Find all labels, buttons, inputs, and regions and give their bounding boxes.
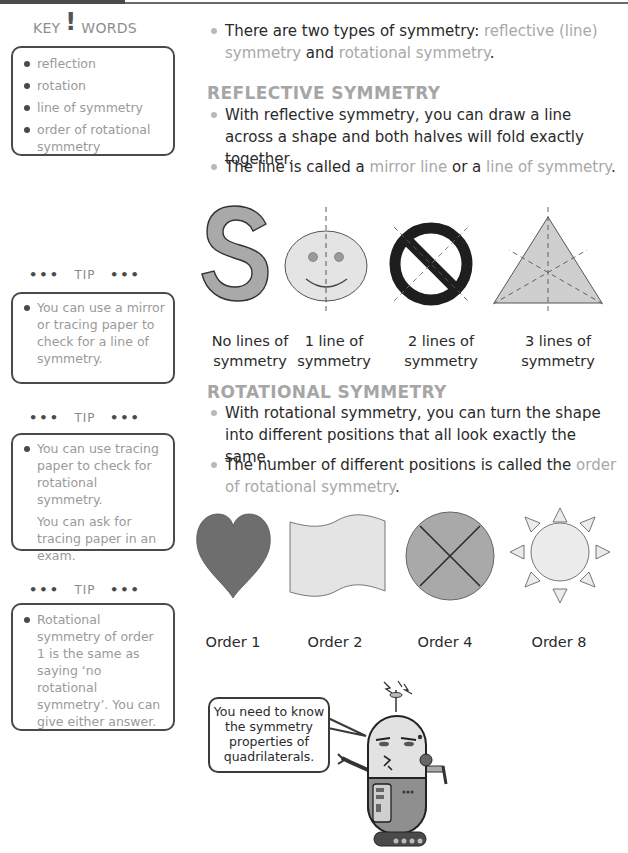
- caption-line: 3 lines of: [503, 331, 613, 351]
- text: .: [611, 158, 616, 176]
- key-words-box: reflection rotation line of symmetry ord…: [11, 46, 175, 156]
- tip-title: ••• TIP •••: [0, 410, 170, 425]
- wavy-flag-icon: [290, 515, 385, 596]
- tip-text: You can use tracing paper to check for r…: [21, 440, 165, 508]
- caption-line: 2 lines of: [386, 331, 496, 351]
- term-rotational: rotational symmetry: [339, 44, 490, 62]
- heading-rotational: ROTATIONAL SYMMETRY: [207, 382, 447, 402]
- rotational-paragraph-2: The number of different positions is cal…: [208, 454, 620, 498]
- dots-icon: •••: [110, 410, 141, 425]
- tip-label: TIP: [74, 583, 95, 597]
- tip-text: Rotational symmetry of order 1 is the sa…: [21, 611, 165, 730]
- smiley-face-icon: [285, 207, 367, 315]
- caption-order-8: Order 8: [514, 632, 604, 652]
- key-words-title-right: WORDS: [81, 20, 137, 36]
- tip-label: TIP: [74, 268, 95, 282]
- key-word-item: line of symmetry: [21, 99, 165, 116]
- caption-order-4: Order 4: [400, 632, 490, 652]
- tip-title: ••• TIP •••: [0, 582, 170, 597]
- dots-icon: •••: [110, 582, 141, 597]
- caption-line: symmetry: [279, 351, 389, 371]
- heading-reflective: REFLECTIVE SYMMETRY: [207, 83, 441, 103]
- intro-paragraph: There are two types of symmetry: reflect…: [208, 20, 620, 64]
- text: .: [395, 478, 400, 496]
- triangle-icon: [493, 207, 603, 315]
- key-words-title: KEY ! WORDS: [0, 18, 170, 36]
- caption-3-lines: 3 lines of symmetry: [503, 331, 613, 371]
- letter-s-icon: [202, 206, 268, 301]
- tip-label: TIP: [74, 411, 95, 425]
- term-line-of-symmetry: line of symmetry: [486, 158, 611, 176]
- bubble-line: You need to know: [210, 704, 328, 719]
- tip-extra-text: You can ask for tracing paper in an exam…: [21, 513, 165, 564]
- robot-mascot: [326, 680, 466, 853]
- bubble-line: the symmetry: [210, 719, 328, 734]
- tip-box: You can use tracing paper to check for r…: [11, 433, 175, 551]
- tip-box: You can use a mirror or tracing paper to…: [11, 292, 175, 384]
- quartered-circle-icon: [406, 512, 494, 600]
- speech-bubble: You need to know the symmetry properties…: [208, 697, 330, 773]
- tip-text: You can use a mirror or tracing paper to…: [21, 299, 165, 367]
- key-word-item: order of rotational symmetry: [21, 121, 165, 155]
- key-word-item: reflection: [21, 55, 165, 72]
- dots-icon: •••: [29, 582, 60, 597]
- sun-icon: [510, 508, 610, 603]
- term-mirror-line: mirror line: [370, 158, 448, 176]
- key-words-title-left: KEY: [33, 20, 60, 36]
- tip-title: ••• TIP •••: [0, 267, 170, 282]
- text: or a: [447, 158, 486, 176]
- key-word-item: rotation: [21, 77, 165, 94]
- reflective-figures: [195, 190, 625, 315]
- caption-line: symmetry: [386, 351, 496, 371]
- exclamation-icon: !: [65, 15, 76, 29]
- caption-order-2: Order 2: [290, 632, 380, 652]
- header-rule: [125, 2, 628, 4]
- caption-line: 1 line of: [279, 331, 389, 351]
- no-entry-sign-icon: [394, 225, 470, 303]
- robot-icon: [338, 681, 446, 846]
- bubble-line: properties of: [210, 734, 328, 749]
- caption-2-lines: 2 lines of symmetry: [386, 331, 496, 371]
- text: The number of different positions is cal…: [225, 456, 576, 474]
- dots-icon: •••: [110, 267, 141, 282]
- reflective-paragraph-2: The line is called a mirror line or a li…: [208, 156, 620, 178]
- bubble-line: quadrilaterals.: [210, 749, 328, 764]
- dots-icon: •••: [29, 410, 60, 425]
- heart-icon: [197, 514, 271, 598]
- text: There are two types of symmetry:: [225, 22, 484, 40]
- tip-box: Rotational symmetry of order 1 is the sa…: [11, 603, 175, 731]
- rotational-figures: [195, 508, 625, 618]
- caption-1-line: 1 line of symmetry: [279, 331, 389, 371]
- caption-order-1: Order 1: [188, 632, 278, 652]
- caption-line: symmetry: [503, 351, 613, 371]
- bubble-tail: [328, 718, 366, 736]
- text: The line is called a: [225, 158, 370, 176]
- header-bar-dark: [0, 0, 125, 4]
- dots-icon: •••: [29, 267, 60, 282]
- text: and: [301, 44, 339, 62]
- text: .: [490, 44, 495, 62]
